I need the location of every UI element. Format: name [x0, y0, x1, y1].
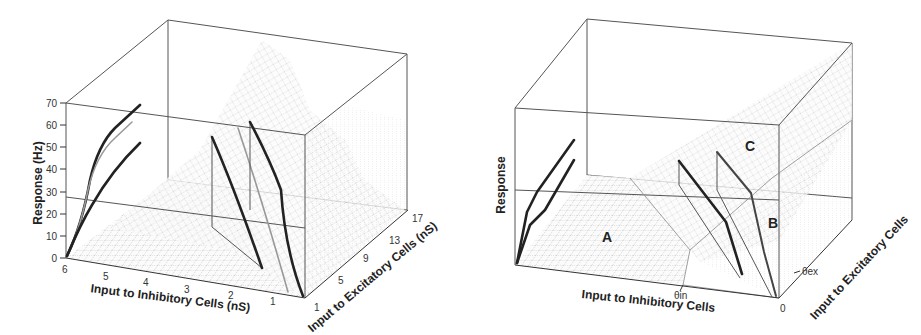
- left-x-tick-5: 5: [103, 271, 109, 282]
- left-z-tick-30: 30: [46, 187, 58, 198]
- region-b-label: B: [768, 215, 778, 231]
- right-x-zero-label: 0: [780, 303, 786, 314]
- figure-canvas: 0 10 20 30 40 50 60 70 Response (Hz) 6 5…: [0, 0, 921, 335]
- left-y-tick-17: 17: [412, 213, 424, 224]
- right-theta-ex-label: θex: [802, 266, 818, 277]
- left-z-ticks: 0 10 20 30 40 50 60 70: [46, 98, 66, 264]
- left-z-tick-70: 70: [46, 98, 58, 109]
- left-y-tick-13: 13: [389, 235, 401, 246]
- region-c-label: C: [745, 138, 755, 154]
- left-z-tick-40: 40: [46, 164, 58, 175]
- left-x-tick-4: 4: [143, 277, 149, 288]
- right-z-label: Response: [494, 156, 508, 214]
- left-panel: 0 10 20 30 40 50 60 70 Response (Hz) 6 5…: [31, 20, 440, 335]
- left-y-tick-5: 5: [338, 275, 344, 286]
- left-x-label: Input to Inhibitory Cells (nS): [90, 281, 251, 314]
- left-x-tick-1: 1: [270, 296, 276, 307]
- right-x-label: Input to Inhibitory Cells: [581, 287, 716, 315]
- left-z-label: Response (Hz): [31, 141, 45, 224]
- left-x-tick-6: 6: [62, 264, 68, 275]
- left-z-tick-50: 50: [46, 142, 58, 153]
- left-y-tick-9: 9: [363, 253, 369, 264]
- left-z-tick-20: 20: [46, 209, 58, 220]
- right-panel: Response θin 0 Input to Inhibitory Cells…: [494, 19, 911, 322]
- region-a-label: A: [602, 229, 612, 245]
- left-z-tick-60: 60: [46, 120, 58, 131]
- left-z-tick-10: 10: [46, 231, 58, 242]
- left-z-tick-0: 0: [51, 253, 57, 264]
